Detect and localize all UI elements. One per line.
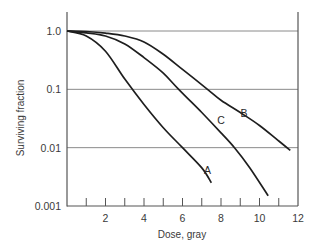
y-tick-labels: 1.00.10.010.001 (35, 25, 61, 212)
y-axis-title: Surviving fraction (15, 80, 26, 157)
x-axis-ticks (86, 198, 279, 206)
x-axis-title: Dose, gray (158, 229, 206, 240)
x-tick-label: 8 (218, 212, 224, 224)
y-tick-label: 0.1 (46, 83, 61, 95)
y-tick-label: 0.01 (41, 142, 62, 154)
curve-label-c: C (217, 114, 225, 126)
survival-curve-chart: 1.00.10.010.001 24681012 ABC Dose, gray … (0, 0, 320, 247)
x-tick-label: 12 (292, 212, 304, 224)
survival-curves (67, 31, 290, 196)
x-tick-label: 6 (180, 212, 186, 224)
x-tick-label: 4 (141, 212, 147, 224)
x-tick-label: 2 (103, 212, 109, 224)
curve-labels: ABC (204, 107, 248, 175)
curve-b (67, 31, 290, 150)
axes (67, 12, 298, 207)
curve-label-b: B (241, 107, 248, 119)
x-tick-labels: 24681012 (103, 212, 304, 224)
curve-label-a: A (204, 164, 211, 176)
y-tick-label: 1.0 (46, 25, 61, 37)
y-tick-label: 0.001 (35, 200, 61, 212)
curve-c (67, 31, 268, 196)
horizontal-gridlines (67, 31, 298, 148)
x-tick-label: 10 (254, 212, 266, 224)
